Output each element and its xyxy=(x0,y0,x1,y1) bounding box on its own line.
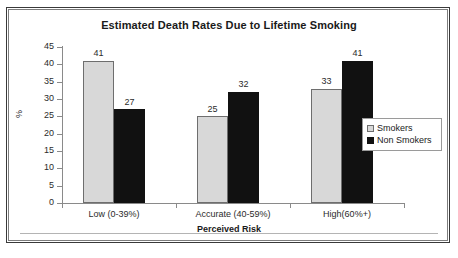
y-tick-30: 30 xyxy=(57,99,62,100)
y-tick-5: 5 xyxy=(57,186,62,187)
footer-divider xyxy=(20,233,438,234)
y-tick-label-25: 25 xyxy=(44,110,54,120)
bar-smokers-high xyxy=(311,89,342,203)
x-category-label-low: Low (0-39%) xyxy=(69,209,159,219)
x-tick-1 xyxy=(176,203,177,208)
bar-value-smokers-low: 41 xyxy=(73,48,124,58)
y-tick-35: 35 xyxy=(57,82,62,83)
y-tick-label-5: 5 xyxy=(49,180,54,190)
legend-swatch-nonsmokers-icon xyxy=(367,137,374,144)
bar-smokers-accurate xyxy=(197,116,228,203)
y-tick-label-35: 35 xyxy=(44,76,54,86)
x-category-label-accurate: Accurate (40-59%) xyxy=(178,209,288,219)
bar-nonsmokers-low xyxy=(114,109,145,203)
y-tick-label-40: 40 xyxy=(44,58,54,68)
y-tick-label-20: 20 xyxy=(44,128,54,138)
y-tick-10: 10 xyxy=(57,168,62,169)
y-axis-line xyxy=(62,46,63,204)
bar-value-nonsmokers-high: 41 xyxy=(332,48,383,58)
y-tick-label-10: 10 xyxy=(44,162,54,172)
x-tick-2 xyxy=(290,203,291,208)
legend-swatch-smokers-icon xyxy=(367,125,374,132)
chart-figure: Estimated Death Rates Due to Lifetime Sm… xyxy=(0,0,458,258)
bar-value-nonsmokers-low: 27 xyxy=(104,97,155,107)
legend-label-nonsmokers: Non Smokers xyxy=(377,135,432,145)
y-tick-label-15: 15 xyxy=(44,145,54,155)
y-tick-40: 40 xyxy=(57,64,62,65)
x-axis-line xyxy=(62,203,405,204)
legend-label-smokers: Smokers xyxy=(377,123,413,133)
x-tick-end xyxy=(404,203,405,208)
legend-item-smokers: Smokers xyxy=(367,122,437,134)
chart-legend: Smokers Non Smokers xyxy=(362,118,442,151)
y-tick-45: 45 xyxy=(57,47,62,48)
y-tick-label-30: 30 xyxy=(44,93,54,103)
bar-smokers-low xyxy=(83,61,114,203)
x-tick-start xyxy=(62,203,63,208)
bar-nonsmokers-accurate xyxy=(228,92,259,203)
chart-title: Estimated Death Rates Due to Lifetime Sm… xyxy=(0,19,458,31)
x-category-label-high: High(60%+) xyxy=(302,209,392,219)
y-tick-25: 25 xyxy=(57,116,62,117)
bar-value-nonsmokers-accurate: 32 xyxy=(218,79,269,89)
y-axis-label: % xyxy=(14,110,24,118)
legend-item-nonsmokers: Non Smokers xyxy=(367,134,437,146)
y-tick-15: 15 xyxy=(57,151,62,152)
y-tick-label-45: 45 xyxy=(44,41,54,51)
y-tick-label-0: 0 xyxy=(49,197,54,207)
y-tick-20: 20 xyxy=(57,134,62,135)
